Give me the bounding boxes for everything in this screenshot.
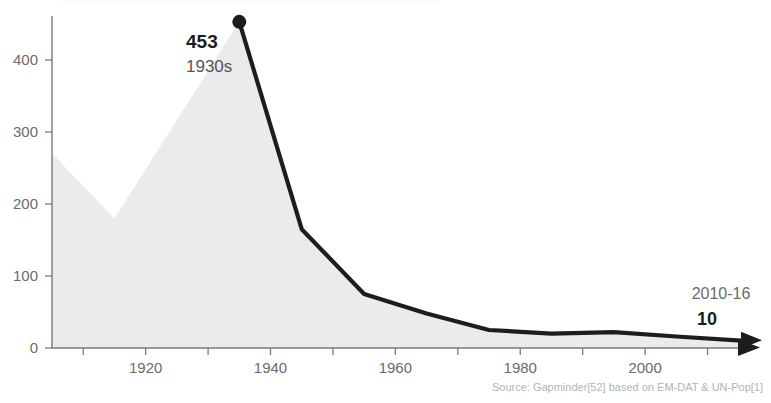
y-axis-ticks xyxy=(45,60,52,348)
chart-container: 0100200300400 19201940196019802000 453 1… xyxy=(0,0,771,403)
y-axis-tick-label: 300 xyxy=(13,123,38,140)
peak-period-label: 1930s xyxy=(186,57,232,76)
x-axis-tick-labels: 19201940196019802000 xyxy=(129,359,662,376)
y-axis-tick-label: 400 xyxy=(13,51,38,68)
peak-marker-dot xyxy=(232,15,246,29)
y-axis-tick-label: 0 xyxy=(30,339,38,356)
area-fill-path xyxy=(52,22,745,348)
area-fill-group xyxy=(52,22,745,348)
x-axis-tick-label: 1920 xyxy=(129,359,162,376)
peak-value-label: 453 xyxy=(186,31,218,52)
x-axis-tick-label: 1960 xyxy=(379,359,412,376)
source-note: Source: Gapminder[52] based on EM-DAT & … xyxy=(492,381,763,393)
x-axis-ticks xyxy=(83,348,707,355)
end-value-label: 10 xyxy=(697,309,717,329)
y-axis-tick-labels: 0100200300400 xyxy=(13,51,38,356)
y-axis-tick-label: 100 xyxy=(13,267,38,284)
y-axis-tick-label: 200 xyxy=(13,195,38,212)
x-axis-tick-label: 1940 xyxy=(254,359,287,376)
natural-disaster-deaths-chart: 0100200300400 19201940196019802000 453 1… xyxy=(0,0,771,403)
end-period-label: 2010-16 xyxy=(692,285,751,302)
x-axis-tick-label: 2000 xyxy=(628,359,661,376)
x-axis-tick-label: 1980 xyxy=(504,359,537,376)
cropped-title-remnant xyxy=(60,0,440,4)
end-annotation: 2010-16 10 xyxy=(692,285,751,329)
